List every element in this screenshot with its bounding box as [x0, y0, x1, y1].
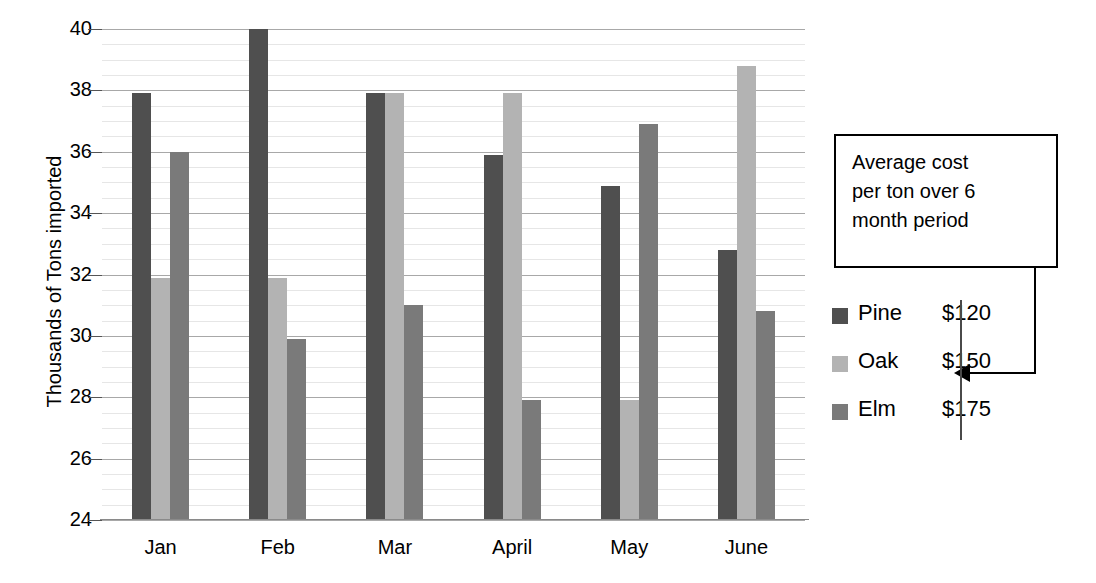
legend-swatch-elm-icon [832, 404, 848, 420]
bar-pine-june[interactable] [718, 250, 737, 520]
gridline-minor [102, 106, 805, 107]
bar-elm-mar[interactable] [404, 305, 423, 520]
bar-elm-april[interactable] [522, 400, 541, 520]
x-tick-label-feb: Feb [218, 536, 338, 559]
gridline-minor [102, 182, 805, 183]
legend-row-elm[interactable]: Elm$175 [832, 392, 1032, 440]
x-tick-label-may: May [569, 536, 689, 559]
legend-label-elm: Elm [858, 396, 896, 422]
bar-elm-may[interactable] [639, 124, 658, 520]
y-tick-label-34: 34 [22, 202, 92, 222]
bar-oak-jan[interactable] [151, 278, 170, 520]
gridline-minor [102, 367, 805, 368]
gridline-minor [102, 290, 805, 291]
y-tick-label-24: 24 [22, 509, 92, 529]
y-tick-label-36: 36 [22, 141, 92, 161]
y-tick-label-26: 26 [22, 448, 92, 468]
average-cost-callout-box: Average cost per ton over 6 month period [834, 134, 1058, 268]
gridline-minor [102, 505, 805, 506]
legend-cost-oak: $150 [942, 348, 991, 374]
gridline-major [102, 90, 805, 91]
legend-cost-pine: $120 [942, 300, 991, 326]
callout-leader-vertical [1034, 268, 1036, 373]
bar-oak-mar[interactable] [385, 93, 404, 520]
plot-area [102, 29, 805, 520]
bar-oak-feb[interactable] [268, 278, 287, 520]
gridline-major [102, 275, 805, 276]
gridline-minor [102, 75, 805, 76]
gridline-minor [102, 351, 805, 352]
bar-elm-june[interactable] [756, 311, 775, 520]
gridline-minor [102, 474, 805, 475]
legend-label-pine: Pine [858, 300, 902, 326]
callout-line-3: month period [852, 206, 1042, 235]
gridline-major [102, 213, 805, 214]
callout-line-1: Average cost [852, 148, 1042, 177]
bar-pine-feb[interactable] [249, 29, 268, 520]
bar-oak-april[interactable] [503, 93, 522, 520]
gridline-major [102, 29, 805, 30]
gridline-major [102, 152, 805, 153]
gridline-major [102, 336, 805, 337]
y-tick-label-30: 30 [22, 325, 92, 345]
gridline-minor [102, 121, 805, 122]
gridline-minor [102, 413, 805, 414]
gridline-minor [102, 60, 805, 61]
bar-pine-april[interactable] [484, 155, 503, 520]
x-tick-label-jan: Jan [101, 536, 221, 559]
gridline-major [102, 520, 805, 521]
bar-oak-may[interactable] [620, 400, 639, 520]
gridline-minor [102, 443, 805, 444]
gridline-minor [102, 228, 805, 229]
chart-canvas: Thousands of Tons imported 4038363432302… [0, 0, 1096, 583]
legend-cost-elm: $175 [942, 396, 991, 422]
gridline-major [102, 397, 805, 398]
gridline-major [102, 459, 805, 460]
legend-label-oak: Oak [858, 348, 898, 374]
gridline-minor [102, 244, 805, 245]
gridline-minor [102, 489, 805, 490]
legend: Pine$120Oak$150Elm$175 [832, 296, 1032, 440]
gridline-minor [102, 167, 805, 168]
gridline-minor [102, 198, 805, 199]
gridline-minor [102, 428, 805, 429]
bar-pine-may[interactable] [601, 186, 620, 520]
y-tick-label-32: 32 [22, 264, 92, 284]
x-tick-label-april: April [452, 536, 572, 559]
bar-pine-jan[interactable] [132, 93, 151, 520]
y-tick-label-40: 40 [22, 18, 92, 38]
y-tick-label-38: 38 [22, 79, 92, 99]
x-tick-label-mar: Mar [335, 536, 455, 559]
legend-swatch-oak-icon [832, 356, 848, 372]
legend-cost-column-divider [960, 300, 962, 440]
y-tick-label-28: 28 [22, 386, 92, 406]
bar-elm-feb[interactable] [287, 339, 306, 520]
callout-line-2: per ton over 6 [852, 177, 1042, 206]
gridline-minor [102, 321, 805, 322]
x-axis-line [100, 519, 809, 520]
gridline-minor [102, 382, 805, 383]
x-tick-label-june: June [686, 536, 806, 559]
gridline-minor [102, 259, 805, 260]
gridline-minor [102, 136, 805, 137]
gridline-minor [102, 44, 805, 45]
legend-swatch-pine-icon [832, 308, 848, 324]
legend-row-oak[interactable]: Oak$150 [832, 344, 1032, 392]
bar-pine-mar[interactable] [366, 93, 385, 520]
legend-row-pine[interactable]: Pine$120 [832, 296, 1032, 344]
gridline-minor [102, 305, 805, 306]
bar-elm-jan[interactable] [170, 152, 189, 520]
bar-oak-june[interactable] [737, 66, 756, 520]
